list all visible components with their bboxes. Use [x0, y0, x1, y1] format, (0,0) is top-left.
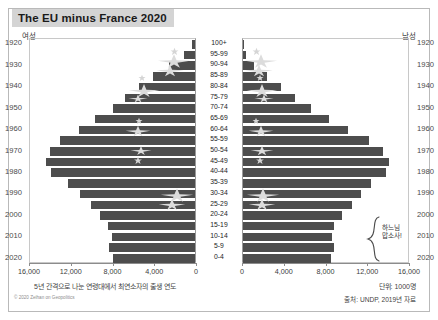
bar: [243, 136, 369, 145]
birth-year-label: 1940: [5, 81, 22, 90]
bar-row: [30, 93, 195, 104]
credit-text: © 2020 Zeihan on Geopolitics: [14, 295, 75, 300]
birth-year-label: 2020: [5, 253, 22, 262]
bar: [243, 40, 244, 49]
bar: [243, 94, 295, 103]
source-text: 출처: UNDP, 2019년 자료: [344, 294, 416, 304]
birth-year-label: 1980: [5, 167, 22, 176]
birth-year-label: 1960: [417, 124, 434, 133]
bar: [108, 222, 195, 231]
bar: [243, 222, 334, 231]
birth-year-label: 2000: [417, 210, 434, 219]
axis-tick-label: 0: [240, 267, 244, 276]
bar: [109, 243, 195, 252]
bar: [60, 136, 195, 145]
bar-row: [243, 125, 408, 136]
birth-year-label: 1970: [5, 146, 22, 155]
birth-year-label: 2000: [5, 210, 22, 219]
bar: [50, 147, 195, 156]
bar: [243, 243, 334, 252]
bar: [243, 51, 246, 60]
axis-tick: [367, 263, 368, 266]
bar-row: [243, 146, 408, 157]
bar-row: [30, 189, 195, 200]
axis-tick-label: 0: [194, 267, 198, 276]
age-band-label: 75-79: [196, 92, 242, 103]
bar: [243, 104, 311, 113]
bar: [243, 201, 352, 210]
bracket-annotation-line2: 맙소사!: [382, 232, 416, 240]
page-title: The EU minus France 2020: [12, 9, 174, 27]
bar-row: [243, 71, 408, 82]
age-band-label: 100+: [196, 38, 242, 49]
age-band-label: 60-64: [196, 124, 242, 135]
bar-row: [30, 200, 195, 211]
bar: [243, 211, 342, 220]
bar: [243, 233, 332, 242]
population-pyramid-figure: The EU minus France 2020 여성 남성 100+95-99…: [0, 0, 438, 320]
bar-row: [243, 82, 408, 93]
female-panel: [29, 38, 196, 263]
axis-tick-label: 16,000: [398, 267, 420, 276]
axis-tick: [154, 263, 155, 266]
bar: [243, 254, 331, 263]
age-band-label: 0-4: [196, 252, 242, 263]
bar-row: [30, 167, 195, 178]
bar: [113, 104, 195, 113]
bar-row: [30, 210, 195, 221]
bar-row: [243, 93, 408, 104]
bar-row: [243, 103, 408, 114]
axis-tick: [113, 263, 114, 266]
bar-row: [243, 189, 408, 200]
age-band-label: 5-9: [196, 241, 242, 252]
bar: [169, 61, 195, 70]
axis-tick-label: 12,000: [356, 267, 378, 276]
birth-year-label: 1930: [417, 60, 434, 69]
axis-tick-label: 4,000: [145, 267, 163, 276]
axis-tick-label: 8,000: [317, 267, 335, 276]
bar: [243, 190, 361, 199]
birth-year-labels-left: 1920193019401950196019701980199020002010…: [3, 38, 29, 263]
birth-year-label: 1940: [417, 81, 434, 90]
birth-year-label: 1950: [417, 103, 434, 112]
axis-tick: [326, 263, 327, 266]
female-bar-rows: [30, 39, 195, 262]
age-band-label: 95-99: [196, 49, 242, 60]
bar: [51, 168, 195, 177]
bar: [112, 233, 196, 242]
birth-year-label: 1920: [417, 38, 434, 47]
bar: [91, 201, 195, 210]
axis-tick: [242, 263, 243, 266]
bar-row: [243, 167, 408, 178]
birth-year-label: 1990: [5, 188, 22, 197]
age-band-labels: 100+95-9990-9485-8980-8475-7970-7465-696…: [196, 38, 242, 263]
axis-tick: [409, 263, 410, 266]
axis-tick: [284, 263, 285, 266]
age-band-label: 90-94: [196, 59, 242, 70]
birth-year-label: 1980: [417, 167, 434, 176]
bar: [46, 158, 195, 167]
bar: [243, 83, 281, 92]
axis-tick-label: 16,000: [18, 267, 40, 276]
bar: [153, 72, 195, 81]
birth-year-label: 1920: [5, 38, 22, 47]
bar: [95, 115, 195, 124]
age-band-label: 15-19: [196, 220, 242, 231]
x-axis: 16,00012,0008,0004,000004,0008,00012,000…: [0, 263, 438, 279]
bar: [243, 147, 383, 156]
birth-year-label: 2010: [417, 231, 434, 240]
axis-tick: [71, 263, 72, 266]
bracket-annotation-label: 하느님 맙소사!: [382, 224, 416, 241]
bar: [113, 254, 195, 263]
bar-row: [243, 39, 408, 50]
bar-row: [243, 60, 408, 71]
bar-row: [30, 135, 195, 146]
bar-row: [243, 210, 408, 221]
age-band-label: 65-69: [196, 113, 242, 124]
birth-year-label: 2010: [5, 231, 22, 240]
unit-note: 단위: 1000명: [379, 281, 416, 291]
bar: [243, 158, 389, 167]
bar-row: [243, 178, 408, 189]
bar: [100, 211, 195, 220]
bar-row: [30, 114, 195, 125]
